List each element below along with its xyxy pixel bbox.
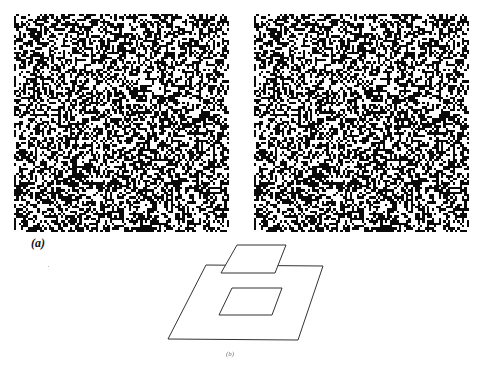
background-plane <box>168 265 323 340</box>
stray-mark <box>48 266 49 267</box>
panel-a-label: (a) <box>31 236 45 251</box>
panel-b-label: (b) <box>226 350 234 358</box>
left-random-dot-image <box>14 14 229 232</box>
right-random-dot-image <box>254 14 469 232</box>
floating-square <box>221 245 286 273</box>
hole-outline <box>219 288 282 315</box>
